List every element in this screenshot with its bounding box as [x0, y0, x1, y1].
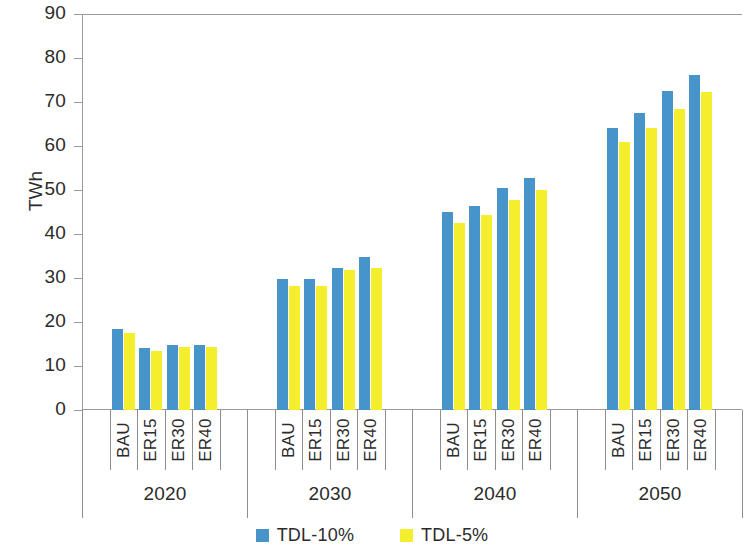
category-label: ER30: [499, 418, 519, 462]
bar-tdl-10: [469, 206, 480, 410]
category-label: ER15: [471, 418, 491, 462]
y-axis-tick-mark: [74, 366, 82, 367]
bar-tdl-10: [139, 348, 150, 410]
y-axis-tick-mark: [74, 146, 82, 147]
category-label: ER15: [141, 418, 161, 462]
year-axis-band: 2020203020402050: [82, 470, 742, 518]
category-spacer-cell: [413, 410, 441, 470]
bar-tdl-10: [442, 212, 453, 410]
bar-pair: [440, 14, 466, 410]
bar-tdl-5: [316, 286, 327, 410]
category-label-cell-bau: BAU: [111, 410, 139, 470]
bar-pair: [495, 14, 521, 410]
chart-legend: TDL-10%TDL-5%: [0, 525, 744, 546]
legend-item-tdl-5[interactable]: TDL-5%: [400, 525, 488, 546]
category-label: ER30: [664, 418, 684, 462]
bar-pair: [605, 14, 631, 410]
bar-pair: [303, 14, 329, 410]
bar-tdl-10: [607, 128, 618, 410]
bar-tdl-5: [151, 351, 162, 410]
legend-item-tdl-10[interactable]: TDL-10%: [256, 525, 354, 546]
category-label: BAU: [444, 422, 464, 458]
bar-tdl-5: [646, 128, 657, 410]
bar-group: [522, 14, 550, 410]
y-axis-tick-label: 60: [44, 134, 66, 156]
bar-tdl-10: [634, 113, 645, 410]
category-label: ER40: [691, 418, 711, 462]
category-label: ER15: [306, 418, 326, 462]
category-spacer-cell: [551, 410, 579, 470]
y-axis-tick-label: 90: [44, 2, 66, 24]
category-label: ER30: [169, 418, 189, 462]
bar-pair: [193, 14, 219, 410]
bar-pair: [468, 14, 494, 410]
yellow-swatch-icon: [400, 529, 413, 542]
category-spacer-cell: [221, 410, 249, 470]
bar-pair: [523, 14, 549, 410]
bar-tdl-5: [674, 109, 685, 410]
category-label-cell-er30: ER30: [166, 410, 194, 470]
blue-swatch-icon: [256, 529, 269, 542]
bar-tdl-5: [454, 223, 465, 410]
category-label: ER40: [361, 418, 381, 462]
category-label-cell-er30: ER30: [661, 410, 689, 470]
category-label-cell-er30: ER30: [331, 410, 359, 470]
bar-pair: [330, 14, 356, 410]
y-axis-tick-mark: [74, 322, 82, 323]
bars-layer: [82, 14, 742, 410]
category-label-cell-er40: ER40: [688, 410, 716, 470]
category-spacer-cell: [83, 410, 111, 470]
y-axis-tick-label: 80: [44, 46, 66, 68]
y-axis-tick-mark: [74, 102, 82, 103]
category-label-cell-er15: ER15: [138, 410, 166, 470]
bar-group: [330, 14, 358, 410]
year-label-2040: 2040: [413, 470, 578, 518]
y-axis-tick-label: 20: [44, 310, 66, 332]
category-label: ER40: [196, 418, 216, 462]
bar-group: [357, 14, 385, 410]
y-axis-tick-label: 0: [55, 398, 66, 420]
y-axis-tick-label: 10: [44, 354, 66, 376]
bar-tdl-10: [167, 345, 178, 410]
chart-canvas: TWh 9080706050403020100 BAUER15ER30ER40B…: [0, 0, 744, 550]
category-label-cell-bau: BAU: [441, 410, 469, 470]
year-label-2030: 2030: [248, 470, 413, 518]
year-label-2020: 2020: [83, 470, 248, 518]
bar-pair: [275, 14, 301, 410]
y-axis-tick-mark: [74, 58, 82, 59]
category-label: BAU: [279, 422, 299, 458]
category-spacer-cell: [716, 410, 744, 470]
bar-pair: [660, 14, 686, 410]
category-label-cell-er40: ER40: [523, 410, 551, 470]
y-axis-tick-mark: [74, 410, 82, 411]
bar-group: [467, 14, 495, 410]
bar-tdl-10: [662, 91, 673, 410]
bar-tdl-5: [206, 347, 217, 410]
category-label: ER15: [636, 418, 656, 462]
bar-pair: [110, 14, 136, 410]
bar-tdl-10: [332, 268, 343, 410]
y-axis-tick-label: 40: [44, 222, 66, 244]
year-label-2050: 2050: [578, 470, 743, 518]
bar-group: [110, 14, 138, 410]
bar-pair: [633, 14, 659, 410]
bar-tdl-10: [277, 279, 288, 410]
y-axis-tick-mark: [74, 278, 82, 279]
category-label-cell-bau: BAU: [276, 410, 304, 470]
bar-tdl-5: [179, 347, 190, 410]
legend-label: TDL-10%: [277, 525, 354, 546]
bar-tdl-10: [359, 257, 370, 410]
y-axis-tick-label: 30: [44, 266, 66, 288]
legend-label: TDL-5%: [421, 525, 488, 546]
bar-group: [302, 14, 330, 410]
category-label-cell-er15: ER15: [633, 410, 661, 470]
category-spacer-cell: [386, 410, 414, 470]
y-axis-tick-mark: [74, 234, 82, 235]
bar-tdl-5: [701, 92, 712, 410]
y-axis-tick-label: 50: [44, 178, 66, 200]
bar-group: [165, 14, 193, 410]
bar-tdl-5: [536, 190, 547, 410]
category-label: BAU: [114, 422, 134, 458]
category-label-cell-bau: BAU: [606, 410, 634, 470]
bar-tdl-5: [619, 142, 630, 410]
